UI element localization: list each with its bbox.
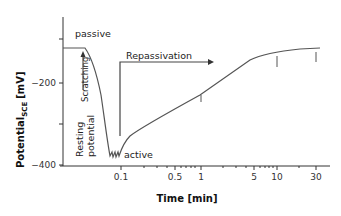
y-axis bbox=[59, 17, 63, 166]
x-tick-label: 30 bbox=[310, 172, 322, 182]
resting-potential-label-group: Resting potential bbox=[74, 115, 96, 157]
potential-time-chart: −200 −400 0.1 0.5 1 5 10 30 Time [min] bbox=[0, 0, 341, 216]
resting-label: Resting bbox=[74, 122, 85, 157]
x-tick-label: 0.5 bbox=[168, 172, 182, 182]
x-axis-title: Time [min] bbox=[156, 193, 217, 204]
y-axis-title-main: Potential bbox=[15, 117, 26, 168]
x-tick-label: 5 bbox=[251, 172, 257, 182]
y-axis-title: PotentialSCE[mV] bbox=[15, 71, 29, 168]
x-tick-label: 1 bbox=[198, 172, 204, 182]
active-label: active bbox=[124, 149, 153, 160]
scratching-arrow-icon bbox=[81, 51, 86, 57]
y-axis-title-sub: SCE bbox=[21, 102, 29, 117]
x-tick-label: 10 bbox=[271, 172, 283, 182]
y-tick-label: −200 bbox=[31, 78, 56, 88]
x-tick-label: 0.1 bbox=[114, 172, 128, 182]
repassivation-bracket bbox=[120, 62, 208, 136]
potential-label: potential bbox=[85, 115, 96, 157]
potential-curve bbox=[63, 48, 320, 157]
y-tick-label: −400 bbox=[31, 160, 56, 170]
passive-label: passive bbox=[75, 28, 111, 39]
y-axis-title-unit: [mV] bbox=[15, 71, 26, 98]
scratching-label: Scratching bbox=[80, 57, 90, 102]
repassivation-arrow-icon bbox=[208, 59, 214, 65]
svg-text:PotentialSCE[mV]: PotentialSCE[mV] bbox=[15, 71, 29, 168]
repassivation-label: Repassivation bbox=[126, 50, 192, 61]
scratching-label-group: Scratching bbox=[80, 57, 90, 102]
x-axis bbox=[60, 166, 330, 170]
